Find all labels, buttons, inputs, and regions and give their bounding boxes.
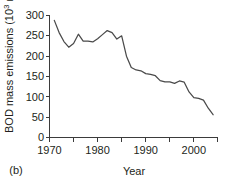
y-tick-label-0: 0 (38, 131, 44, 143)
x-tick-label-1970: 1970 (37, 144, 61, 156)
y-tick-label-200: 200 (26, 50, 44, 62)
y-axis-title: BOD mass emissions (103 mt) (2, 0, 15, 133)
x-tick-label-1980: 1980 (85, 144, 109, 156)
y-tick-label-250: 250 (26, 29, 44, 41)
x-tick-label-2000: 2000 (182, 144, 206, 156)
y-tick-label-300: 300 (26, 9, 44, 21)
y-axis-title-prefix: BOD mass emissions (10 (3, 9, 15, 133)
data-series-line (54, 20, 213, 114)
y-tick-label-150: 150 (26, 70, 44, 82)
panel-label: (b) (9, 164, 22, 176)
x-tick-label-1990: 1990 (133, 144, 157, 156)
bod-emissions-line-chart: BOD mass emissions (103 mt) 300 250 200 … (0, 0, 226, 182)
y-axis-title-suffix: mt) (3, 0, 15, 4)
x-axis-title: Year (123, 165, 146, 177)
figure-panel-b: BOD mass emissions (103 mt) 300 250 200 … (0, 0, 226, 182)
y-tick-label-50: 50 (32, 111, 44, 123)
y-tick-label-100: 100 (26, 91, 44, 103)
